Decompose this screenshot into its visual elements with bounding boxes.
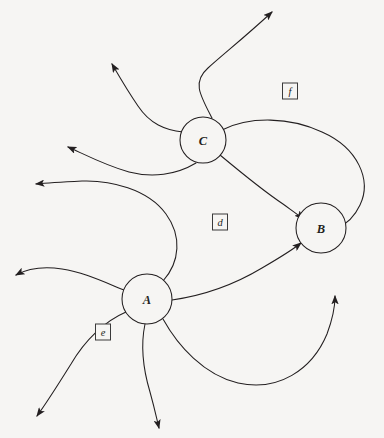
edge-a-to-left-s-curve — [36, 181, 177, 281]
node-b[interactable]: B — [296, 203, 346, 253]
edge-a-to-bottom — [143, 324, 159, 428]
graph-svg: ABC def — [0, 0, 384, 438]
region-label-f: f — [283, 83, 298, 99]
edge-c-to-left — [68, 147, 196, 175]
edge-c-to-b-direct — [220, 155, 303, 219]
node-label-c: C — [199, 134, 208, 148]
diagram-canvas: ABC def — [0, 0, 384, 438]
region-text-d: d — [217, 217, 223, 228]
edge-a-to-left-lower — [16, 268, 124, 290]
node-c[interactable]: C — [180, 117, 226, 163]
edge-a-to-bottom-left — [37, 312, 126, 416]
edge-c-to-upper-right — [199, 12, 272, 118]
region-label-e: e — [96, 324, 111, 340]
node-label-a: A — [142, 293, 151, 307]
node-label-b: B — [316, 222, 325, 236]
edge-c-to-upper-left — [112, 64, 183, 132]
region-label-d: d — [213, 214, 228, 230]
edge-a-to-b-around-bottom — [163, 296, 335, 385]
region-text-e: e — [101, 327, 106, 338]
edge-a-to-b-direct — [172, 243, 301, 300]
node-a[interactable]: A — [122, 274, 172, 324]
nodes-layer: ABC — [122, 117, 346, 324]
